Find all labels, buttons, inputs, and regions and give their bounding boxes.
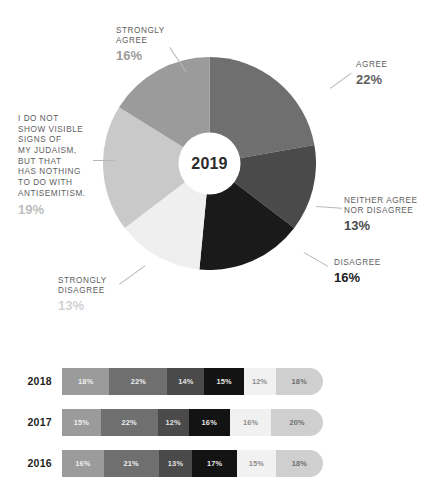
bar-segment: 15% [237, 450, 276, 477]
bar-segment: 18% [276, 368, 323, 395]
bar-segment: 18% [276, 450, 323, 477]
stacked-bars-section: 2018 18%22%14%15%12%18% 2017 15%22%12%16… [0, 358, 438, 499]
bar-row-2018: 2018 18%22%14%15%12%18% [0, 366, 438, 396]
bar-segment: 14% [167, 368, 204, 395]
pie-chart-section: 2019 STRONGLY AGREE 16% AGREE 22% NEITHE… [0, 0, 438, 352]
pie-label-disagree: DISAGREE 16% [334, 258, 381, 286]
bar-segment: 21% [104, 450, 159, 477]
pie-value-disagree: 16% [334, 270, 381, 286]
bar-track-2018: 18%22%14%15%12%18% [62, 368, 323, 395]
bar-segment: 15% [204, 368, 244, 395]
pie-label-no-visible-signs-line-1: SHOW VISIBLE [18, 125, 86, 136]
leader-line-agree [330, 73, 352, 89]
bar-segment: 12% [158, 409, 189, 436]
donut-chart-svg [103, 57, 316, 270]
pie-label-no-visible-signs-line-5: HAS NOTHING [18, 167, 86, 178]
bar-track-2017: 15%22%12%16%16%20% [62, 409, 323, 436]
pie-label-no-visible-signs-line-3: MY JUDAISM, [18, 146, 86, 157]
bar-segment: 15% [62, 409, 101, 436]
bar-row-2017: 2017 15%22%12%16%16%20% [0, 407, 438, 437]
bar-row-year-2018: 2018 [0, 375, 62, 387]
pie-value-strongly-agree: 16% [116, 48, 165, 64]
bar-segment: 17% [192, 450, 236, 477]
donut-hole [179, 133, 241, 195]
bar-segment: 20% [271, 409, 323, 436]
pie-label-neither-line-1: NOR DISAGREE [344, 206, 418, 216]
survey-chart-figure: 2019 STRONGLY AGREE 16% AGREE 22% NEITHE… [0, 0, 438, 499]
pie-label-disagree-line-0: DISAGREE [334, 258, 381, 268]
pie-label-strongly-agree-line-1: AGREE [116, 36, 165, 46]
pie-label-neither-agree-nor-disagree: NEITHER AGREE NOR DISAGREE 13% [344, 196, 418, 234]
pie-label-no-visible-signs-line-7: ANTISEMITISM. [18, 189, 86, 200]
bar-segment: 22% [101, 409, 158, 436]
bar-segment: 12% [244, 368, 276, 395]
pie-label-no-visible-signs-line-0: I DO NOT [18, 114, 86, 125]
pie-value-no-visible-signs: 19% [18, 202, 86, 218]
bar-segment: 22% [109, 368, 167, 395]
bar-segment: 16% [230, 409, 271, 436]
pie-label-no-visible-signs: I DO NOT SHOW VISIBLE SIGNS OF MY JUDAIS… [18, 114, 86, 218]
bar-segment: 18% [62, 368, 109, 395]
pie-label-agree: AGREE 22% [356, 60, 387, 88]
pie-label-no-visible-signs-line-2: SIGNS OF [18, 135, 86, 146]
pie-value-agree: 22% [356, 72, 387, 88]
pie-value-neither-agree-nor-disagree: 13% [344, 218, 418, 234]
pie-value-strongly-disagree: 13% [58, 298, 107, 314]
pie-label-neither-line-0: NEITHER AGREE [344, 196, 418, 206]
bar-row-year-2017: 2017 [0, 416, 62, 428]
pie-label-strongly-disagree-line-0: STRONGLY [58, 276, 107, 286]
pie-label-no-visible-signs-line-4: BUT THAT [18, 157, 86, 168]
pie-label-strongly-disagree: STRONGLY DISAGREE 13% [58, 276, 107, 314]
pie-label-strongly-agree: STRONGLY AGREE 16% [116, 26, 165, 64]
bar-segment: 16% [189, 409, 230, 436]
bar-row-year-2016: 2016 [0, 457, 62, 469]
bar-track-2016: 16%21%13%17%15%18% [62, 450, 323, 477]
pie-label-strongly-agree-line-0: STRONGLY [116, 26, 165, 36]
pie-label-agree-line-0: AGREE [356, 60, 387, 70]
bar-segment: 16% [62, 450, 104, 477]
bar-row-2016: 2016 16%21%13%17%15%18% [0, 448, 438, 478]
donut-chart: 2019 [103, 57, 316, 270]
bar-segment: 13% [159, 450, 193, 477]
leader-line-neither [316, 206, 342, 209]
leader-line-no-visible-signs [93, 160, 115, 161]
pie-label-strongly-disagree-line-1: DISAGREE [58, 286, 107, 296]
pie-label-no-visible-signs-line-6: TO DO WITH [18, 178, 86, 189]
